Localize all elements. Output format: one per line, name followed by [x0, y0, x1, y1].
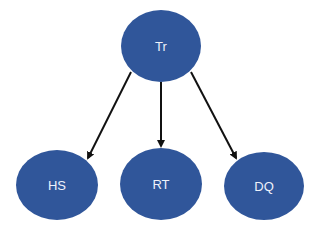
- node-label: DQ: [254, 179, 274, 194]
- node-label: RT: [152, 177, 169, 192]
- edge-tr-dq: [191, 72, 236, 158]
- edge-tr-hs: [88, 72, 131, 158]
- node-hs: HS: [16, 150, 98, 220]
- tree-diagram: Tr HS RT DQ: [0, 0, 318, 235]
- node-label: HS: [48, 178, 66, 193]
- node-rt: RT: [120, 148, 202, 220]
- node-dq: DQ: [224, 152, 304, 220]
- node-tr: Tr: [121, 10, 201, 82]
- node-label: Tr: [155, 39, 167, 54]
